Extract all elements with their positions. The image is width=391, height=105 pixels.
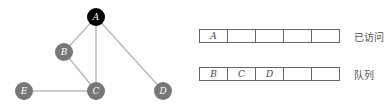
node-a: A <box>87 8 105 26</box>
queue-cell: B <box>199 67 228 81</box>
edge-a-d <box>96 17 163 91</box>
graph-diagram: A B C D E <box>0 0 190 105</box>
node-e: E <box>15 82 33 100</box>
node-d-label: D <box>158 86 166 96</box>
queue-cell <box>311 67 340 81</box>
queue-cell <box>283 67 312 81</box>
node-b-label: B <box>60 47 68 57</box>
queue-array: B C D <box>199 67 340 81</box>
visited-cell <box>283 29 312 43</box>
node-d: D <box>154 82 172 100</box>
visited-cell <box>227 29 256 43</box>
visited-cell: A <box>199 29 228 43</box>
node-e-label: E <box>20 86 28 96</box>
queue-cell: C <box>227 67 256 81</box>
node-b: B <box>55 43 73 61</box>
edges <box>24 17 163 91</box>
queue-label: 队列 <box>354 67 374 82</box>
node-c-label: C <box>93 86 100 96</box>
visited-array: A <box>199 29 340 43</box>
node-a-label: A <box>92 12 100 22</box>
visited-cell <box>311 29 340 43</box>
visited-label: 已访问 <box>354 29 384 44</box>
visited-cell <box>255 29 284 43</box>
queue-cell: D <box>255 67 284 81</box>
node-c: C <box>87 82 105 100</box>
